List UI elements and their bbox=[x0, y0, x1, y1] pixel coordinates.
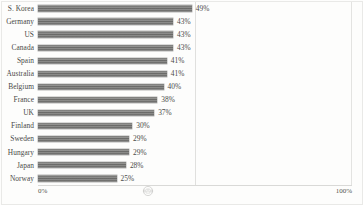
bar-value-label: 43% bbox=[177, 18, 191, 25]
bar-track: 43% bbox=[38, 28, 352, 41]
bar-row: Spain41% bbox=[0, 54, 363, 67]
bar-value-label: 43% bbox=[177, 31, 191, 38]
bar bbox=[38, 31, 173, 37]
bar bbox=[38, 5, 192, 11]
category-label: S. Korea bbox=[0, 5, 34, 12]
x-axis-tick-label-min: 0% bbox=[38, 188, 47, 195]
bar-value-label: 43% bbox=[177, 44, 191, 51]
bar-track: 38% bbox=[38, 93, 352, 106]
bar-value-label: 29% bbox=[133, 149, 147, 156]
bar bbox=[38, 110, 154, 116]
bar bbox=[38, 58, 167, 64]
category-label: Australia bbox=[0, 70, 34, 77]
bar-value-label: 49% bbox=[196, 5, 210, 12]
bar-track: 29% bbox=[38, 133, 352, 146]
bar-row: UK37% bbox=[0, 107, 363, 120]
bar-row: Canada43% bbox=[0, 41, 363, 54]
bar-value-label: 30% bbox=[136, 122, 150, 129]
bar-track: 25% bbox=[38, 172, 352, 185]
bar-value-label: 40% bbox=[168, 83, 182, 90]
bar-track: 43% bbox=[38, 15, 352, 28]
category-label: Japan bbox=[0, 162, 34, 169]
bar-value-label: 25% bbox=[121, 175, 135, 182]
category-label: Canada bbox=[0, 44, 34, 51]
category-label: Sweden bbox=[0, 135, 34, 142]
bar bbox=[38, 45, 173, 51]
bar-value-label: 37% bbox=[158, 109, 172, 116]
bar-row: S. Korea49% bbox=[0, 2, 363, 15]
bar-value-label: 29% bbox=[133, 135, 147, 142]
bar bbox=[38, 175, 117, 181]
bar-value-label: 41% bbox=[171, 70, 185, 77]
bar-row: Finland30% bbox=[0, 120, 363, 133]
category-label: Norway bbox=[0, 175, 34, 182]
bar-row: US43% bbox=[0, 28, 363, 41]
bar bbox=[38, 84, 164, 90]
x-axis-line bbox=[38, 185, 352, 186]
bar-row: Norway25% bbox=[0, 172, 363, 185]
bar-value-label: 41% bbox=[171, 57, 185, 64]
category-label: Germany bbox=[0, 18, 34, 25]
bar-row: Sweden29% bbox=[0, 133, 363, 146]
bar-track: 43% bbox=[38, 41, 352, 54]
bar-track: 30% bbox=[38, 120, 352, 133]
category-label: UK bbox=[0, 109, 34, 116]
bar-row: Australia41% bbox=[0, 67, 363, 80]
bar bbox=[38, 123, 132, 129]
bar bbox=[38, 97, 157, 103]
category-label: Spain bbox=[0, 57, 34, 64]
circular-stamp-watermark-icon bbox=[143, 186, 154, 197]
bar-value-label: 38% bbox=[161, 96, 175, 103]
bar-chart: S. Korea49%Germany43%US43%Canada43%Spain… bbox=[0, 0, 363, 205]
bar-rows: S. Korea49%Germany43%US43%Canada43%Spain… bbox=[0, 2, 363, 185]
bar-track: 41% bbox=[38, 67, 352, 80]
bar bbox=[38, 136, 129, 142]
bar-track: 49% bbox=[38, 2, 352, 15]
category-label: Hungary bbox=[0, 149, 34, 156]
bar bbox=[38, 18, 173, 24]
bar bbox=[38, 162, 126, 168]
bar-track: 41% bbox=[38, 54, 352, 67]
category-label: US bbox=[0, 31, 34, 38]
bar bbox=[38, 149, 129, 155]
bar-row: Belgium40% bbox=[0, 80, 363, 93]
bar-row: France38% bbox=[0, 93, 363, 106]
bar-row: Germany43% bbox=[0, 15, 363, 28]
bar-row: Hungary29% bbox=[0, 146, 363, 159]
category-label: Finland bbox=[0, 122, 34, 129]
x-axis-tick-label-max: 100% bbox=[336, 188, 352, 195]
bar-value-label: 28% bbox=[130, 162, 144, 169]
category-label: France bbox=[0, 96, 34, 103]
bar-track: 29% bbox=[38, 146, 352, 159]
category-label: Belgium bbox=[0, 83, 34, 90]
bar-row: Japan28% bbox=[0, 159, 363, 172]
bar-track: 28% bbox=[38, 159, 352, 172]
bar-track: 40% bbox=[38, 80, 352, 93]
bar-track: 37% bbox=[38, 107, 352, 120]
bar bbox=[38, 71, 167, 77]
